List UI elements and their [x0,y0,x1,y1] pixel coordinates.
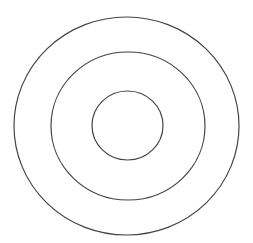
inner-circle [92,91,163,160]
concentric-circles-diagram [0,0,253,243]
middle-circle [51,52,205,200]
